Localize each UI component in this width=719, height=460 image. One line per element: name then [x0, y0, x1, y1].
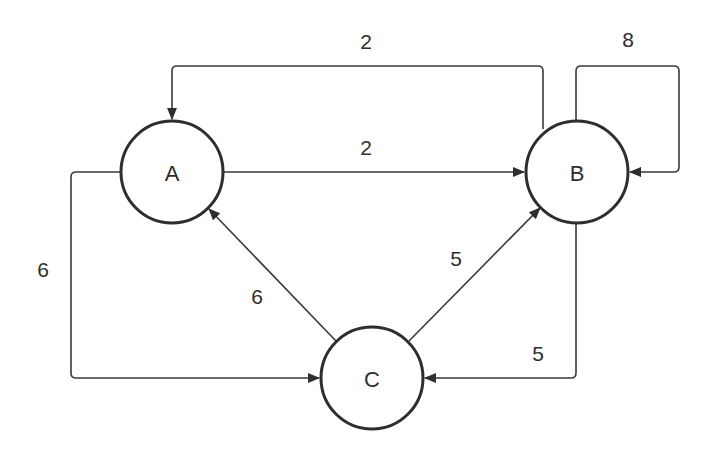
edge-c-to-b: [409, 208, 540, 341]
edge-label-c-to-a: 6: [251, 285, 263, 308]
edge-label-b-self-loop: 8: [622, 28, 634, 51]
edge-label-b-to-a: 2: [360, 30, 372, 53]
edge-label-c-to-b: 5: [450, 247, 462, 270]
edge-label-a-to-c: 6: [37, 258, 49, 281]
edge-c-to-a: [209, 209, 336, 341]
edge-label-b-to-c: 5: [532, 342, 544, 365]
node-a-label: A: [165, 161, 180, 186]
node-b: B: [526, 121, 628, 223]
node-b-label: B: [570, 161, 585, 186]
edge-b-to-a: [172, 66, 543, 129]
graph-diagram: A B C 2 2 8 6 6 5 5: [0, 0, 719, 460]
node-c-label: C: [364, 367, 380, 392]
edge-b-to-c: [425, 223, 576, 378]
node-a: A: [121, 121, 223, 223]
edge-label-a-to-b: 2: [360, 136, 372, 159]
node-c: C: [321, 327, 423, 429]
